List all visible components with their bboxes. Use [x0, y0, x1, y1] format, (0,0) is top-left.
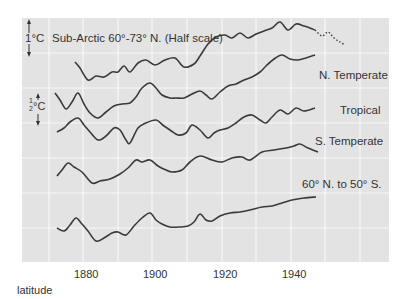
half-scale-unit: °C	[33, 100, 45, 112]
x-tick-1940: 1940	[282, 268, 306, 280]
climate-chart	[0, 0, 410, 299]
n-temperate-label: N. Temperate	[319, 69, 388, 81]
x-axis-label: latitude	[17, 284, 52, 296]
global-label: 60° N. to 50° S.	[302, 178, 382, 190]
s-temperate-label: S. Temperate	[315, 135, 383, 147]
x-tick-1880: 1880	[74, 268, 98, 280]
subarctic-scale-label: 1°C	[25, 32, 44, 44]
subarctic-label: Sub-Arctic 60°-73° N. (Half scale)	[52, 32, 223, 44]
tropical-label: Tropical	[340, 104, 380, 116]
x-tick-1920: 1920	[213, 268, 237, 280]
x-tick-1900: 1900	[143, 268, 167, 280]
